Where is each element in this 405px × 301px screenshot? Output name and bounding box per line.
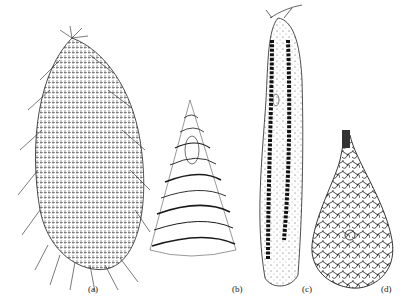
panel-a-drawing [18,26,150,292]
panel-c-drawing [260,5,303,286]
panel-label-a: (a) [88,284,98,294]
panel-label-d: (d) [381,284,392,294]
panel-b-drawing [150,100,236,256]
panel-label-b: (b) [232,284,243,294]
figure: (a) (b) (c) (d) [0,0,405,301]
panel-label-c: (c) [302,284,312,294]
illustration [0,0,405,301]
panel-d-drawing [312,130,393,288]
